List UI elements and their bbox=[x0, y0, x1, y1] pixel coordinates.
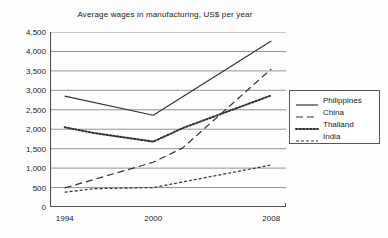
series-line-india bbox=[65, 165, 272, 192]
legend-item-label: Philippines bbox=[323, 96, 362, 105]
plot-area bbox=[50, 32, 286, 207]
y-tick-label: 2,500 bbox=[26, 105, 46, 114]
legend-line-swatch-icon bbox=[295, 108, 319, 118]
legend-line-swatch-icon bbox=[295, 96, 319, 106]
chart-figure: Average wages in manufacturing, US$ per … bbox=[0, 0, 388, 238]
legend-line-swatch-icon bbox=[295, 132, 319, 142]
y-tick-label: 3,000 bbox=[26, 86, 46, 95]
series-line-china bbox=[65, 69, 272, 188]
chart-legend: PhilippinesChinaThailandIndia bbox=[289, 90, 380, 144]
y-tick-label: 1,000 bbox=[26, 164, 46, 173]
axis-tick-marks bbox=[50, 32, 271, 207]
y-tick-label: 4,000 bbox=[26, 47, 46, 56]
legend-item-label: India bbox=[323, 132, 340, 141]
y-tick-label: 4,500 bbox=[26, 28, 46, 37]
legend-item-label: China bbox=[323, 108, 344, 117]
legend-item-thailand[interactable]: Thailand bbox=[295, 119, 379, 130]
y-tick-label: 500 bbox=[33, 183, 46, 192]
gridlines bbox=[50, 32, 286, 188]
legend-item-china[interactable]: China bbox=[295, 107, 379, 118]
chart-title: Average wages in manufacturing, US$ per … bbox=[40, 10, 290, 19]
y-tick-label: 1,500 bbox=[26, 144, 46, 153]
data-series-group bbox=[65, 41, 272, 192]
x-tick-label: 1994 bbox=[56, 214, 74, 223]
y-tick-label: 0 bbox=[42, 203, 46, 212]
legend-item-philippines[interactable]: Philippines bbox=[295, 95, 379, 106]
legend-item-india[interactable]: India bbox=[295, 131, 379, 142]
y-tick-label: 3,500 bbox=[26, 66, 46, 75]
legend-item-label: Thailand bbox=[323, 120, 354, 129]
x-axis-tick-labels: 199420002008 bbox=[50, 212, 286, 226]
legend-line-swatch-icon bbox=[295, 120, 319, 130]
x-tick-label: 2000 bbox=[144, 214, 162, 223]
y-tick-label: 2,000 bbox=[26, 125, 46, 134]
x-tick-label: 2008 bbox=[262, 214, 280, 223]
series-line-philippines bbox=[65, 41, 272, 115]
y-axis-tick-labels: 05001,0001,5002,0002,5003,0003,5004,0004… bbox=[0, 32, 46, 207]
plot-svg bbox=[50, 32, 286, 207]
axis-spines bbox=[50, 32, 286, 207]
